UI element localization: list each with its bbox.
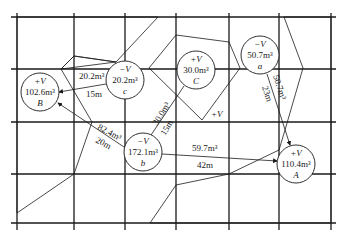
fill-zones <box>17 17 331 223</box>
node-a-id: a <box>258 61 263 71</box>
node-C: +V 30.0m³ C <box>177 51 215 89</box>
arrow-b-to-B <box>58 103 124 147</box>
grid <box>11 13 336 230</box>
transfer-b-A-distance: 42m <box>197 160 213 170</box>
node-c: −V 20.2m³ c <box>106 61 144 99</box>
node-b-sign: −V <box>137 136 150 146</box>
node-a: −V 50.7m³ a <box>241 36 279 74</box>
node-B-sign: +V <box>34 76 47 86</box>
node-A-volume: 110.4m³ <box>281 159 311 169</box>
node-B-id: B <box>37 98 43 108</box>
node-A-id: A <box>292 170 299 180</box>
node-B-volume: 102.6m³ <box>25 87 55 97</box>
node-a-sign: −V <box>254 39 267 49</box>
transfer-c-B-volume: 20.2m³ <box>79 71 105 81</box>
fill-zone-right <box>150 17 331 223</box>
node-b: −V 172.1m³ b <box>124 133 162 171</box>
node-A: +V 110.4m³ A <box>277 145 315 183</box>
transfer-arrows <box>58 74 290 161</box>
node-b-volume: 172.1m³ <box>128 147 158 157</box>
arrow-b-to-A <box>162 154 277 161</box>
extra-fill-label: +V <box>211 109 224 119</box>
transfer-b-A-volume: 59.7m³ <box>192 143 218 153</box>
node-c-sign: −V <box>119 64 132 74</box>
node-C-id: C <box>193 76 200 86</box>
node-c-volume: 20.2m³ <box>112 75 138 85</box>
node-C-sign: +V <box>190 54 203 64</box>
node-c-id: c <box>123 86 127 96</box>
transfer-a-A-distance: 23m <box>260 85 274 103</box>
cut-zone-outline <box>61 56 116 69</box>
node-B: +V 102.6m³ B <box>21 73 59 111</box>
earthwork-diagram: 20.2m³ 15m 82.4m³ 20m 30.0m³ 15m 59.7m³ … <box>0 0 342 241</box>
transfer-c-B-distance: 15m <box>86 89 102 99</box>
node-a-volume: 50.7m³ <box>247 50 273 60</box>
fill-zone-left <box>17 17 158 213</box>
node-b-id: b <box>141 158 146 168</box>
node-C-volume: 30.0m³ <box>183 65 209 75</box>
node-A-sign: +V <box>290 148 303 158</box>
